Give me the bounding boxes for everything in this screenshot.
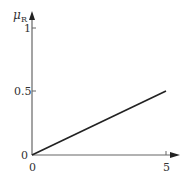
y-tick-label-05: 0.5: [14, 85, 32, 98]
x-axis-arrow-icon: [170, 152, 180, 158]
x-tick-label-5: 5: [163, 161, 170, 173]
y-tick-label-0: 0: [21, 149, 28, 162]
x-tick-label-0: 0: [29, 161, 36, 173]
y-axis-arrow-icon: [29, 11, 35, 20]
y-tick-label-1: 1: [24, 22, 31, 35]
y-axis-label: μ: [13, 8, 21, 22]
chart-canvas: μ R 1 0.5 0 0 5: [0, 0, 192, 173]
data-line-muR: [32, 91, 166, 155]
